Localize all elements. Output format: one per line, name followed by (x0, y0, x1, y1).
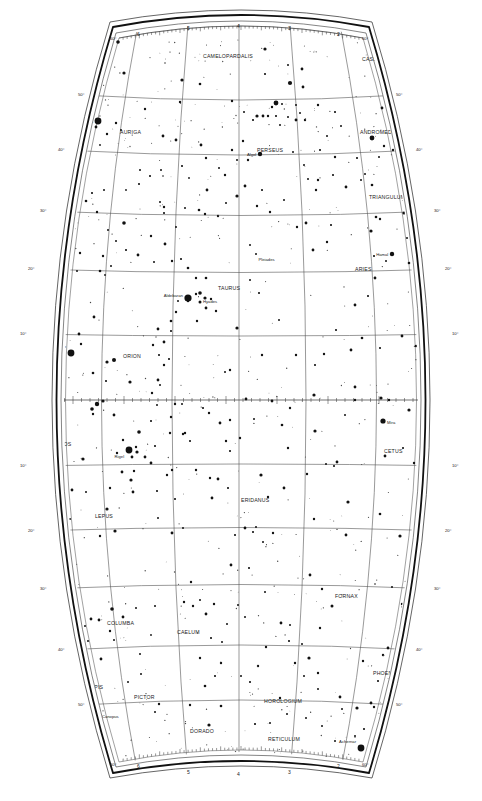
dec-label-left-40s: 40° (58, 647, 65, 652)
faint-star (303, 578, 304, 579)
faint-star (302, 401, 303, 402)
faint-star (227, 503, 228, 504)
dec-label-right-10n: 10° (452, 331, 459, 336)
faint-star (305, 457, 306, 458)
faint-star (58, 388, 59, 389)
ra-label-top-4: 4 (237, 23, 240, 29)
star-name-label: Algol (247, 152, 256, 157)
faint-star (190, 237, 191, 238)
star (309, 574, 312, 577)
star (354, 386, 357, 389)
faint-star (201, 220, 202, 221)
faint-star (179, 238, 180, 239)
star (180, 78, 183, 81)
faint-star (103, 410, 104, 411)
star (80, 343, 82, 345)
faint-star (78, 223, 79, 224)
star (417, 134, 419, 136)
star (378, 156, 380, 158)
dec-label-left-40n: 40° (58, 147, 65, 152)
star-name-label: Hyades (203, 299, 217, 304)
faint-star (286, 706, 287, 707)
star (367, 295, 369, 297)
faint-star (357, 42, 358, 43)
faint-star (178, 523, 179, 524)
faint-star (98, 320, 99, 321)
dec-label-left-10n: 10° (20, 331, 27, 336)
faint-star (281, 387, 282, 388)
faint-star (90, 302, 91, 303)
star (317, 179, 319, 181)
constellation-label: CAELUM (177, 629, 200, 635)
star (234, 534, 236, 536)
star (92, 413, 94, 415)
faint-star (387, 384, 388, 385)
faint-star (296, 176, 297, 177)
star (279, 124, 281, 126)
faint-star (112, 129, 113, 130)
star (315, 189, 317, 191)
faint-star (245, 730, 246, 731)
faint-star (204, 129, 205, 130)
faint-star (114, 688, 115, 689)
star (319, 627, 321, 629)
star (240, 675, 242, 677)
star (354, 399, 356, 401)
star (243, 111, 245, 113)
faint-star (203, 397, 204, 398)
faint-star (347, 659, 348, 660)
star (437, 404, 439, 406)
star (127, 681, 129, 683)
faint-star (249, 692, 250, 693)
faint-star (180, 385, 181, 386)
star (208, 412, 210, 414)
faint-star (259, 482, 260, 483)
star (402, 211, 405, 214)
star (384, 455, 387, 458)
star (175, 226, 177, 228)
faint-star (377, 166, 378, 167)
dec-label-right-30n: 30° (434, 208, 441, 213)
star (171, 532, 174, 535)
star (231, 100, 233, 102)
star (211, 497, 214, 500)
faint-star (132, 310, 133, 311)
star (299, 112, 301, 114)
faint-star (355, 580, 356, 581)
star (312, 393, 315, 396)
star (170, 330, 172, 332)
star-marker (255, 253, 257, 255)
star (99, 270, 102, 273)
faint-star (230, 590, 231, 591)
star (331, 605, 334, 608)
faint-star (119, 72, 120, 73)
named-star-mira: Mira (380, 418, 396, 424)
star (340, 125, 342, 127)
faint-star (446, 347, 447, 348)
faint-star (218, 548, 219, 549)
faint-star (56, 302, 57, 303)
star (289, 407, 291, 409)
star (267, 115, 269, 117)
faint-star (276, 396, 277, 397)
faint-star (124, 140, 125, 141)
faint-star (185, 618, 186, 619)
star (313, 518, 315, 520)
faint-star (222, 126, 223, 127)
faint-star (437, 316, 438, 317)
faint-star (373, 174, 374, 175)
star (198, 291, 202, 295)
faint-star (125, 603, 126, 604)
star (387, 647, 390, 650)
star (192, 605, 194, 607)
faint-star (458, 416, 459, 417)
faint-star (222, 61, 223, 62)
faint-star (320, 398, 321, 399)
faint-star (316, 126, 317, 127)
faint-star (443, 298, 444, 299)
faint-star (178, 126, 179, 127)
star (175, 311, 177, 313)
faint-star (305, 118, 306, 119)
faint-star (195, 104, 196, 105)
star (105, 380, 107, 382)
